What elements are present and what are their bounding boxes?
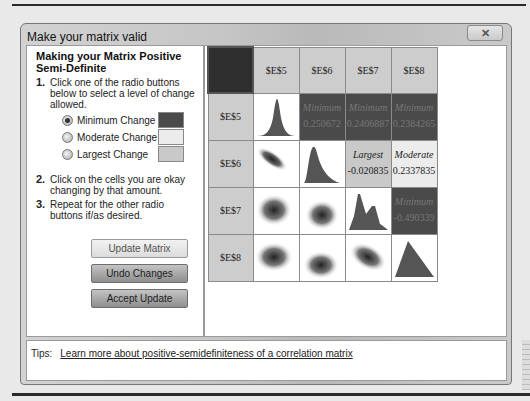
radio-button-checked[interactable] xyxy=(62,115,73,126)
triangular-histogram-icon xyxy=(392,235,437,281)
title-bar[interactable]: Make your matrix valid ✕ xyxy=(21,24,511,45)
scatter-plot-icon xyxy=(254,188,299,234)
tips-label: Tips: xyxy=(31,348,52,359)
instructions-panel: Making your Matrix Positive Semi-Definit… xyxy=(26,45,204,337)
moderate-color-swatch xyxy=(158,129,184,145)
psd-learn-more-link[interactable]: Learn more about positive-semidefinitene… xyxy=(60,348,352,359)
scatter-cell xyxy=(345,234,391,281)
largest-color-swatch xyxy=(158,146,184,162)
correlation-matrix: $E$5 $E$6 $E$7 $E$8 $E$5 Minimum 0.25067… xyxy=(207,46,438,282)
column-header: $E$6 xyxy=(299,47,345,93)
radio-button[interactable] xyxy=(62,132,73,143)
row-header: $E$6 xyxy=(208,140,253,187)
skewed-histogram-icon xyxy=(300,141,345,187)
radio-button[interactable] xyxy=(62,149,73,160)
scatter-cell xyxy=(253,234,299,281)
column-header: $E$7 xyxy=(345,47,391,93)
histogram-cell xyxy=(391,234,437,281)
tips-row: Tips: Learn more about positive-semidefi… xyxy=(31,348,353,359)
step-text: Click one of the radio buttons below to … xyxy=(50,77,195,110)
background-divider-top xyxy=(12,4,526,6)
step-2: 2. Click on the cells you are okay chang… xyxy=(36,174,195,196)
scatter-plot-icon xyxy=(346,235,391,281)
matrix-cell-largest[interactable]: Largest -0.020835 xyxy=(345,140,391,187)
column-header: $E$5 xyxy=(253,47,299,93)
tips-panel: Tips: Learn more about positive-semidefi… xyxy=(26,340,507,381)
scatter-cell xyxy=(253,187,299,234)
close-x-icon: ✕ xyxy=(481,27,490,40)
window-title: Make your matrix valid xyxy=(27,30,147,44)
radio-largest-change[interactable]: Largest Change xyxy=(62,147,148,161)
close-button[interactable]: ✕ xyxy=(467,25,503,41)
histogram-cell xyxy=(299,140,345,187)
accept-update-button[interactable]: Accept Update xyxy=(91,289,188,308)
histogram-cell xyxy=(253,93,299,140)
background-edge xyxy=(522,340,530,390)
background-divider-bottom xyxy=(12,393,530,396)
step-text: Click on the cells you are okay changing… xyxy=(50,174,195,196)
row-header: $E$5 xyxy=(208,93,253,140)
minimum-color-swatch xyxy=(158,112,184,128)
radio-label: Minimum Change xyxy=(77,115,155,126)
update-matrix-button[interactable]: Update Matrix xyxy=(91,239,188,258)
scatter-cell xyxy=(299,187,345,234)
undo-changes-button[interactable]: Undo Changes xyxy=(91,264,188,283)
instructions-heading: Making your Matrix Positive Semi-Definit… xyxy=(36,50,201,74)
matrix-cell-moderate[interactable]: Moderate 0.2337835 xyxy=(391,140,437,187)
step-number: 1. xyxy=(36,77,50,110)
bell-histogram-icon xyxy=(254,94,299,140)
step-3: 3. Repeat for the other radio buttons if… xyxy=(36,199,195,221)
matrix-cell-minimum[interactable]: Minimum 0.250672 xyxy=(299,93,345,140)
step-text: Repeat for the other radio buttons if/as… xyxy=(50,199,195,221)
matrix-panel: $E$5 $E$6 $E$7 $E$8 $E$5 Minimum 0.25067… xyxy=(204,45,507,337)
step-1: 1. Click one of the radio buttons below … xyxy=(36,77,195,110)
histogram-cell xyxy=(345,187,391,234)
scatter-plot-icon xyxy=(254,141,299,187)
bimodal-histogram-icon xyxy=(346,188,391,234)
radio-label: Moderate Change xyxy=(77,132,157,143)
scatter-cell xyxy=(299,234,345,281)
scatter-plot-icon xyxy=(300,188,345,234)
row-header: $E$8 xyxy=(208,234,253,281)
column-header: $E$8 xyxy=(391,47,437,93)
matrix-dialog: Make your matrix valid ✕ Making your Mat… xyxy=(20,23,512,385)
scatter-cell xyxy=(253,140,299,187)
matrix-cell-minimum[interactable]: Minimum -0.490339 xyxy=(391,187,437,234)
step-number: 2. xyxy=(36,174,50,196)
radio-minimum-change[interactable]: Minimum Change xyxy=(62,113,155,127)
step-number: 3. xyxy=(36,199,50,221)
matrix-corner-cell xyxy=(208,47,253,93)
row-header: $E$7 xyxy=(208,187,253,234)
scatter-plot-icon xyxy=(254,235,299,281)
matrix-cell-minimum[interactable]: Minimum 0.2406887 xyxy=(345,93,391,140)
scatter-plot-icon xyxy=(300,235,345,281)
matrix-cell-minimum[interactable]: Minimum 0.2384265 xyxy=(391,93,437,140)
radio-moderate-change[interactable]: Moderate Change xyxy=(62,130,157,144)
radio-label: Largest Change xyxy=(77,149,148,160)
